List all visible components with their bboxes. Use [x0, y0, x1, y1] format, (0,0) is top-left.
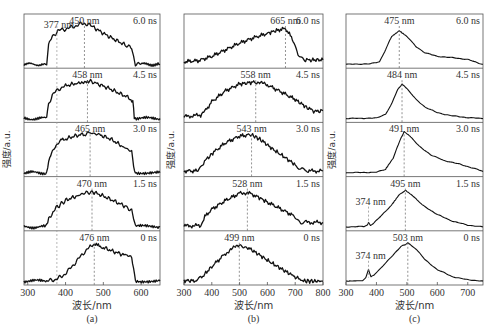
x-axis-label: 波长/nm — [72, 299, 111, 311]
x-tick-label: 700 — [288, 287, 303, 298]
chart-figure: 300400500600波长/nm(a)强度/a.u.450 nm6.0 ns3… — [0, 0, 490, 334]
time-label: 6.0 ns — [456, 15, 480, 26]
peak-label: 484 nm — [387, 69, 418, 80]
x-tick-label: 300 — [339, 287, 354, 298]
x-axis-label: 波长/nm — [234, 299, 273, 311]
peak-label: 543 nm — [236, 123, 267, 134]
panel-c: 300400500600700波长/nm(c)强度/a.u.475 nm6.0 … — [326, 14, 483, 325]
peak-label: 558 nm — [241, 69, 272, 80]
time-label: 6.0 ns — [133, 15, 157, 26]
peak-label: 470 nm — [77, 178, 108, 189]
panel-label: (c) — [409, 313, 420, 325]
secondary-peak-label: 374 nm — [355, 250, 386, 261]
spectrum-curve — [346, 84, 483, 119]
peak-label: 495 nm — [390, 178, 421, 189]
time-label: 3.0 ns — [296, 123, 320, 134]
x-tick-label: 400 — [369, 287, 384, 298]
y-axis-label: 强度/a.u. — [165, 131, 176, 169]
peak-label: 528 nm — [232, 178, 263, 189]
x-tick-label: 400 — [204, 287, 219, 298]
panel-frame — [346, 14, 483, 285]
time-label: 3.0 ns — [456, 123, 480, 134]
spectrum-curve — [184, 245, 323, 284]
x-tick-label: 500 — [232, 287, 247, 298]
peak-label: 475 nm — [384, 15, 415, 26]
spectrum-curve — [184, 134, 323, 174]
time-label: 4.5 ns — [296, 69, 320, 80]
x-axis-label: 波长/nm — [395, 299, 434, 311]
spectrum-curve — [184, 27, 323, 63]
x-tick-label: 500 — [399, 287, 414, 298]
peak-label: 476 nm — [79, 232, 110, 243]
peak-label: 465 nm — [75, 123, 106, 134]
peak-label: 499 nm — [224, 232, 255, 243]
panel-b: 300400500600700800波长/nm(b)强度/a.u.665 nm6… — [165, 14, 331, 325]
panel-label: (a) — [86, 313, 97, 325]
peak-label: 503 nm — [393, 232, 424, 243]
x-tick-label: 600 — [430, 287, 445, 298]
panel-a: 300400500600波长/nm(a)强度/a.u.450 nm6.0 ns3… — [1, 14, 160, 325]
time-label: 0 ns — [304, 232, 321, 243]
spectrum-curve — [346, 243, 483, 281]
panel-label: (b) — [248, 313, 260, 325]
x-tick-label: 400 — [58, 287, 73, 298]
secondary-peak-label: 377 nm — [44, 19, 75, 30]
peak-label: 491 nm — [389, 123, 420, 134]
time-label: 4.5 ns — [456, 69, 480, 80]
panel-frame — [24, 14, 160, 285]
x-tick-label: 300 — [177, 287, 192, 298]
spectrum-curve — [346, 132, 483, 173]
x-tick-label: 300 — [20, 287, 35, 298]
spectrum-curve — [184, 192, 323, 228]
x-tick-label: 600 — [134, 287, 149, 298]
spectrum-curve — [24, 79, 160, 120]
x-tick-label: 800 — [316, 287, 331, 298]
time-label: 0 ns — [464, 232, 481, 243]
x-tick-label: 700 — [460, 287, 475, 298]
x-tick-label: 500 — [96, 287, 111, 298]
y-axis-label: 强度/a.u. — [326, 131, 337, 169]
spectrum-curve — [24, 132, 160, 175]
secondary-peak-label: 374 nm — [355, 196, 386, 207]
y-axis-label: 强度/a.u. — [1, 131, 12, 169]
peak-label: 458 nm — [72, 69, 103, 80]
time-label: 0 ns — [141, 232, 158, 243]
time-label: 3.0 ns — [133, 123, 157, 134]
spectrum-curve — [184, 81, 323, 118]
x-tick-label: 600 — [260, 287, 275, 298]
time-label: 6.0 ns — [296, 15, 320, 26]
time-label: 1.5 ns — [296, 178, 320, 189]
spectrum-curve — [346, 31, 483, 65]
time-label: 1.5 ns — [456, 178, 480, 189]
time-label: 1.5 ns — [133, 178, 157, 189]
panel-frame — [184, 14, 323, 285]
time-label: 4.5 ns — [133, 69, 157, 80]
spectrum-curve — [24, 243, 160, 283]
